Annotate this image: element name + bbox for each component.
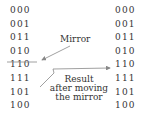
diagram-lines <box>0 0 147 121</box>
mirror-label: Mirror <box>60 35 90 44</box>
mirror-arrow <box>42 46 70 60</box>
result-label: Result after moving the mirror <box>44 75 114 102</box>
result-label-line-3: the mirror <box>44 93 114 102</box>
